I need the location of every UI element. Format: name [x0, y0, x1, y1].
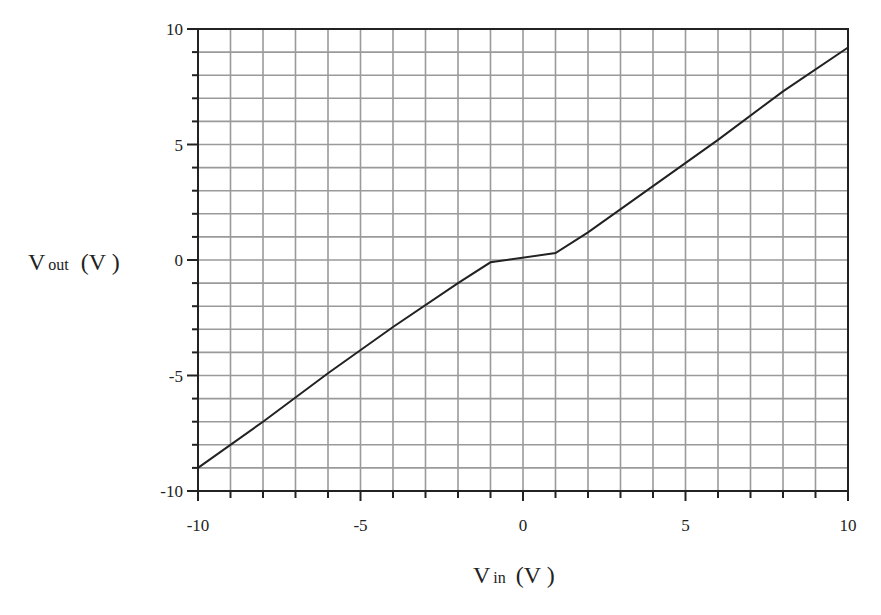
x-axis-label-sub: in — [493, 569, 505, 586]
y-tick-label: -5 — [169, 367, 183, 386]
y-tick-label: -10 — [160, 482, 183, 501]
x-tick-labels: -10-50510 — [187, 516, 857, 535]
grid-lines — [198, 29, 848, 491]
y-axis-label-sub: out — [48, 256, 69, 273]
x-axis-label-unit: (V ) — [516, 562, 555, 588]
y-tick-label: 10 — [166, 20, 183, 39]
x-axis-label-main: V — [473, 562, 491, 588]
y-tick-label: 5 — [175, 136, 184, 155]
y-tick-labels: -10-50510 — [160, 20, 183, 501]
x-tick-label: -10 — [187, 516, 210, 535]
tick-marks — [187, 29, 848, 501]
x-tick-label: 10 — [840, 516, 857, 535]
y-tick-label: 0 — [175, 251, 184, 270]
x-tick-label: 0 — [519, 516, 528, 535]
x-tick-label: 5 — [681, 516, 690, 535]
x-tick-label: -5 — [353, 516, 367, 535]
chart: -10-50510 -10-50510 Vout(V ) Vin(V ) — [0, 0, 881, 615]
y-axis-label-unit: (V ) — [81, 249, 120, 275]
y-axis-label: Vout(V ) — [28, 249, 120, 275]
x-axis-label: Vin(V ) — [473, 562, 555, 588]
y-axis-label-main: V — [28, 249, 46, 275]
